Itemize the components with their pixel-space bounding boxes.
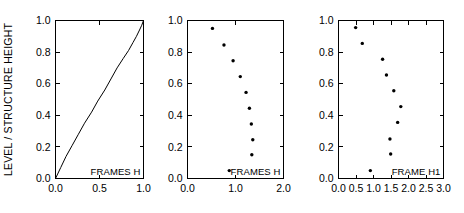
panel-3-yticklabel: 0.0 (319, 172, 334, 184)
panel-3-datapoint (385, 73, 388, 76)
panel-3-yticklabel: 0.6 (319, 77, 334, 89)
panel-1-yticklabel: 0.0 (36, 172, 51, 184)
panel-1-xticklabel: 0.5 (92, 182, 107, 194)
panel-1-yticklabel: 0.4 (36, 109, 51, 121)
panel-3-yticklabel: 0.2 (319, 141, 334, 153)
panel-3-datapoint (399, 105, 402, 108)
panel-2-datapoint (231, 59, 234, 62)
y-axis-title: LEVEL / STRUCTURE HEIGHT (2, 23, 14, 177)
panel-3-yticklabel: 0.8 (319, 46, 334, 58)
panel-3-xticklabel: 1.0 (366, 182, 381, 194)
panel-1-xticklabel: 1.0 (136, 182, 151, 194)
panel-3-datapoint (354, 26, 357, 29)
panel-2-datapoint (211, 27, 214, 30)
panel-2-datapoint (248, 106, 251, 109)
panel-2-yticklabel: 0.4 (168, 109, 183, 121)
panel-3-datapoint (396, 121, 399, 124)
panel-3-datapoint (389, 152, 392, 155)
panel-1-annotation: FRAMES H (91, 166, 141, 177)
panel-2-yticklabel: 0.2 (168, 141, 183, 153)
panel-1: 0.00.51.00.00.20.40.60.81.0FRAMES H (36, 14, 151, 193)
panel-3-xticklabel: 2.0 (401, 182, 416, 194)
panel-2-yticklabel: 0.0 (168, 172, 183, 184)
panel-2-yticklabel: 0.8 (168, 46, 183, 58)
panel-2-xticklabel: 1.0 (228, 182, 243, 194)
figure-container: 0.00.51.00.00.20.40.60.81.0FRAMES H0.01.… (0, 0, 464, 213)
panel-1-yticklabel: 1.0 (36, 14, 51, 26)
panel-3-yticklabel: 0.4 (319, 109, 334, 121)
panel-3-datapoint (361, 42, 364, 45)
panel-3: 0.00.51.01.52.02.53.00.00.20.40.60.81.0F… (319, 14, 451, 193)
panel-3-xticklabel: 3.0 (436, 182, 451, 194)
panel-1-yticklabel: 0.6 (36, 77, 51, 89)
panel-2-yticklabel: 1.0 (168, 14, 183, 26)
panel-3-xticklabel: 0.5 (349, 182, 364, 194)
panel-3-annotation: FRAME H1 (392, 166, 441, 177)
multi-panel-chart: 0.00.51.00.00.20.40.60.81.0FRAMES H0.01.… (0, 0, 464, 213)
panel-2-xticklabel: 2.0 (276, 182, 291, 194)
panel-1-yticklabel: 0.8 (36, 46, 51, 58)
panel-2-frame (188, 21, 284, 179)
panel-2-datapoint (251, 138, 254, 141)
panel-2-datapoint (250, 122, 253, 125)
panel-3-datapoint (369, 169, 372, 172)
panel-3-yticklabel: 1.0 (319, 14, 334, 26)
panel-1-curve (56, 21, 144, 179)
panel-2-datapoint (244, 91, 247, 94)
panel-3-datapoint (388, 137, 391, 140)
panel-2: 0.01.02.00.00.20.40.60.81.0FRAMES H (168, 14, 291, 193)
panel-2-datapoint (250, 153, 253, 156)
panel-3-datapoint (381, 58, 384, 61)
panel-1-frame (56, 21, 144, 179)
panel-1-yticklabel: 0.2 (36, 141, 51, 153)
panel-2-datapoint (222, 43, 225, 46)
panel-2-yticklabel: 0.6 (168, 77, 183, 89)
panel-3-datapoint (392, 89, 395, 92)
panel-3-xticklabel: 1.5 (384, 182, 399, 194)
panel-2-datapoint (239, 75, 242, 78)
panel-2-annotation: FRAMES H (231, 166, 281, 177)
panel-3-xticklabel: 2.5 (419, 182, 434, 194)
